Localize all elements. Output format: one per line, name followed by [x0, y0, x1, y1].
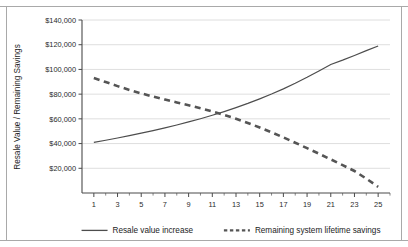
y-axis-tick-labels: $20,000$40,000$60,000$80,000$100,000$120… — [45, 16, 76, 173]
x-tick-label: 21 — [327, 200, 335, 209]
y-tick-label: $140,000 — [45, 16, 76, 25]
y-tick-label: $100,000 — [45, 65, 76, 74]
y-axis-title: Resale Value / Remaining Savings — [13, 44, 22, 169]
x-tick-label: 5 — [139, 200, 143, 209]
grid-lines — [82, 20, 390, 168]
x-tick-label: 11 — [208, 200, 216, 209]
x-tick-label: 25 — [374, 200, 382, 209]
x-tick-label: 15 — [256, 200, 264, 209]
y-tick-label: $40,000 — [49, 139, 76, 148]
x-tick-label: 23 — [350, 200, 358, 209]
x-axis-ticks — [94, 193, 390, 197]
y-tick-label: $20,000 — [49, 164, 76, 173]
x-tick-label: 7 — [163, 200, 167, 209]
y-tick-label: $60,000 — [49, 115, 76, 124]
chart-figure: $20,000$40,000$60,000$80,000$100,000$120… — [0, 0, 408, 247]
x-tick-label: 13 — [232, 200, 240, 209]
chart-legend: Resale value increaseRemaining system li… — [82, 226, 381, 235]
legend-label: Resale value increase — [113, 226, 194, 235]
x-tick-label: 3 — [115, 200, 119, 209]
x-tick-label: 19 — [303, 200, 311, 209]
line-chart: $20,000$40,000$60,000$80,000$100,000$120… — [0, 0, 408, 247]
y-tick-label: $80,000 — [49, 90, 76, 99]
legend-label: Remaining system lifetime savings — [255, 226, 381, 235]
y-tick-label: $120,000 — [45, 40, 76, 49]
x-tick-label: 9 — [187, 200, 191, 209]
data-series — [94, 46, 378, 187]
x-tick-label: 17 — [279, 200, 287, 209]
x-axis-tick-labels: 135791113151719212325 — [92, 200, 382, 209]
x-tick-label: 1 — [92, 200, 96, 209]
